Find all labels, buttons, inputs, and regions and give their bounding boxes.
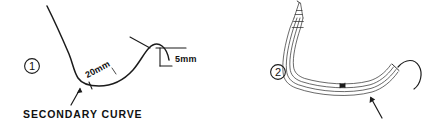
dimension-label-5mm: 5mm (175, 54, 197, 64)
primary-curve-path (47, 6, 169, 86)
technical-line-drawing: 1 2 20mm 5mm SECONDARY CURVE (0, 0, 433, 128)
distal-hook-curl (398, 61, 421, 90)
tick-20mm-leader (112, 68, 116, 74)
arrow-secondary-curve-head (77, 88, 83, 94)
arrow-distal-tip-head (370, 96, 376, 103)
dimension-label-20mm: 20mm (83, 59, 111, 80)
needle-tip-point (297, 1, 300, 3)
diagram-canvas: 1 2 20mm 5mm SECONDARY CURVE (0, 0, 433, 128)
hump-upper-stroke (130, 37, 150, 48)
panel-1-number-label: 1 (29, 60, 35, 72)
panel-2-number-label: 2 (275, 66, 281, 78)
panel-2-group (271, 1, 421, 118)
marker-band-fill (340, 84, 345, 88)
panel-1-group (25, 6, 186, 105)
shaft-strand-inner (293, 18, 391, 84)
caption-secondary-curve: SECONDARY CURVE (23, 108, 143, 120)
